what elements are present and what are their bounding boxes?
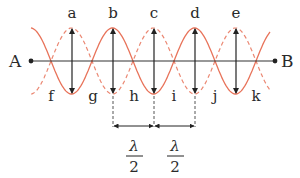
antinode-label-b: b — [108, 4, 118, 22]
antinode-label-d: d — [190, 4, 200, 22]
point-a-dot — [29, 59, 34, 64]
antinode-label-c: c — [150, 4, 158, 22]
fraction-1-denominator: 2 — [129, 158, 139, 176]
label-b-end: B — [281, 51, 294, 71]
label-a-end: A — [8, 51, 22, 71]
antinode-label-a: a — [68, 4, 77, 22]
fraction-1-numerator: λ — [128, 137, 139, 155]
node-label-f: f — [48, 87, 55, 105]
node-label-k: k — [251, 87, 261, 105]
point-b-dot — [273, 59, 278, 64]
node-label-h: h — [129, 87, 139, 105]
standing-wave-diagram: A B a b c d e f g h i j k λ 2 λ 2 — [0, 0, 300, 178]
node-label-g: g — [88, 87, 98, 105]
node-label-i: i — [172, 87, 177, 105]
fraction-2-numerator: λ — [169, 137, 180, 155]
antinode-label-e: e — [232, 4, 241, 22]
spacing-guides — [113, 96, 195, 127]
node-label-j: j — [211, 87, 218, 105]
fraction-2-denominator: 2 — [170, 158, 180, 176]
